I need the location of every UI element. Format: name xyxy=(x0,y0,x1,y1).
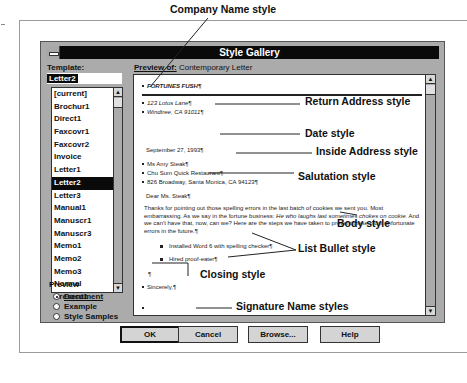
template-item[interactable]: Direct1 xyxy=(52,113,122,126)
template-item[interactable]: Memo1 xyxy=(52,240,122,253)
empty-line xyxy=(142,305,147,311)
template-item[interactable]: Manuscr3 xyxy=(52,228,122,241)
template-item[interactable]: Letter1 xyxy=(52,164,122,177)
callout-date: Date style xyxy=(305,127,355,139)
template-input[interactable]: Letter2 xyxy=(47,73,122,84)
callout-inside-address: Inside Address style xyxy=(316,145,418,157)
template-input-value: Letter2 xyxy=(47,74,78,83)
template-item[interactable]: Memo3 xyxy=(52,266,122,279)
ok-label: OK xyxy=(144,330,156,339)
closing-text: Sincerely,¶ xyxy=(147,284,176,290)
callout-return-address: Return Address style xyxy=(305,95,410,107)
bullet-icon xyxy=(142,286,144,288)
scroll-thumb[interactable] xyxy=(426,85,435,95)
radio-style-samples[interactable]: Style Samples xyxy=(53,312,118,321)
title-bar[interactable]: Style Gallery xyxy=(46,46,439,59)
template-item[interactable]: Faxcovr1 xyxy=(52,126,122,139)
list-bullet-1: Installed Word 6 with spelling checker¶ xyxy=(160,243,273,249)
date-line: September 27, 1993¶ xyxy=(146,147,204,153)
scroll-up-arrow-icon[interactable]: ▲ xyxy=(114,88,122,97)
inside-address-line-1: Ms Amy Steak¶ xyxy=(142,161,189,167)
browse-button[interactable]: Browse... xyxy=(248,326,308,343)
bullet-icon xyxy=(142,307,144,309)
template-label: Template: xyxy=(47,63,84,72)
template-item[interactable]: Manuscr1 xyxy=(52,215,122,228)
inside-address-text: Chu Sum Quick Restaurant¶ xyxy=(147,170,223,176)
closing-line: Sincerely,¶ xyxy=(142,284,176,290)
salutation-line: Dear Ms. Steak¶ xyxy=(146,193,191,199)
inside-address-text: 826 Broadway, Santa Monica, CA 94123¶ xyxy=(147,179,258,185)
inside-address-line-3: 826 Broadway, Santa Monica, CA 94123¶ xyxy=(142,179,258,185)
radio-selected-icon[interactable] xyxy=(53,293,60,300)
bullet-icon xyxy=(142,111,144,113)
preview-option-group: Preview Document Example Style Samples xyxy=(49,280,125,322)
cancel-label: Cancel xyxy=(195,330,221,339)
company-name-line: FORTUNES FUSH¶ xyxy=(142,83,201,89)
preview-group-title: Preview xyxy=(49,280,125,289)
template-item[interactable]: [current] xyxy=(52,88,122,101)
radio-example[interactable]: Example xyxy=(53,302,97,311)
bullet-icon xyxy=(142,85,144,87)
help-label: Help xyxy=(341,330,358,339)
radio-label: Style Samples xyxy=(64,312,118,321)
bullet-icon xyxy=(142,102,144,104)
return-address-line-1: 123 Lotus Lane¶ xyxy=(142,100,192,106)
template-item[interactable]: Letter3 xyxy=(52,190,122,203)
inside-address-text: Ms Amy Steak¶ xyxy=(147,161,189,167)
radio-label: Document xyxy=(64,292,103,301)
bullet-icon xyxy=(142,181,144,183)
callout-salutation: Salutation style xyxy=(298,170,376,182)
style-gallery-dialog: Style Gallery Template: Letter2 [current… xyxy=(40,41,445,323)
browse-label: Browse... xyxy=(260,330,296,339)
template-item-selected[interactable]: Letter2 xyxy=(52,177,122,190)
radio-document[interactable]: Document xyxy=(53,292,103,301)
list-bullet-text: Installed Word 6 with spelling checker¶ xyxy=(169,243,273,249)
callout-body: Body style xyxy=(337,217,390,229)
callout-company-name: Company Name style xyxy=(170,3,276,15)
template-item[interactable]: Faxcovr2 xyxy=(52,139,122,152)
preview-scrollbar[interactable]: ▲ ▼ xyxy=(425,75,435,315)
preview-of-prefix: Preview of: xyxy=(134,63,177,72)
radio-icon[interactable] xyxy=(53,303,60,310)
scroll-thumb[interactable] xyxy=(114,98,122,108)
window-title: Style Gallery xyxy=(60,46,439,59)
company-name-text: FORTUNES FUSH¶ xyxy=(147,83,201,89)
scroll-down-arrow-icon[interactable]: ▼ xyxy=(426,306,435,315)
callout-signature-name: Signature Name styles xyxy=(236,300,349,312)
list-bullet-2: Hired proof-eater¶ xyxy=(160,256,218,262)
bullet-icon xyxy=(160,258,163,261)
help-button[interactable]: Help xyxy=(320,326,380,343)
callout-list-bullet: List Bullet style xyxy=(298,242,376,254)
template-item[interactable]: Brochur1 xyxy=(52,101,122,114)
template-item[interactable]: Memo2 xyxy=(52,253,122,266)
template-item[interactable]: Invoice xyxy=(52,151,122,164)
bullet-icon xyxy=(142,163,144,165)
blank-paragraph: ¶ xyxy=(148,271,151,277)
radio-icon[interactable] xyxy=(53,313,60,320)
bullet-icon xyxy=(142,172,144,174)
callout-closing: Closing style xyxy=(200,268,265,280)
return-address-text: 123 Lotus Lane¶ xyxy=(147,100,192,106)
return-address-text: Windtree, CA 91011¶ xyxy=(147,109,204,115)
return-address-line-2: Windtree, CA 91011¶ xyxy=(142,109,204,115)
inside-address-line-2: Chu Sum Quick Restaurant¶ xyxy=(142,170,223,176)
template-item[interactable]: Manual1 xyxy=(52,202,122,215)
cancel-button[interactable]: Cancel xyxy=(178,326,238,343)
scroll-up-arrow-icon[interactable]: ▲ xyxy=(426,75,435,84)
preview-document-name: Contemporary Letter xyxy=(179,63,252,72)
margin-tick xyxy=(1,24,5,25)
preview-pane[interactable]: FORTUNES FUSH¶ 123 Lotus Lane¶ Windtree,… xyxy=(133,74,436,316)
radio-label: Example xyxy=(64,302,97,311)
template-listbox[interactable]: [current] Brochur1 Direct1 Faxcovr1 Faxc… xyxy=(51,87,123,293)
ok-button[interactable]: OK xyxy=(120,326,180,343)
template-scrollbar[interactable]: ▲ ▼ xyxy=(113,88,122,292)
list-bullet-text: Hired proof-eater¶ xyxy=(169,256,218,262)
bullet-icon xyxy=(160,245,163,248)
preview-of-label: Preview of: Contemporary Letter xyxy=(134,63,252,72)
system-menu-button[interactable] xyxy=(46,46,60,59)
